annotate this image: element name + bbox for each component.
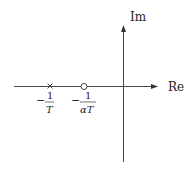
pole-zero-diagram: Re Im − 1 T − 1 αT — [0, 0, 192, 175]
pole-label-numerator: 1 — [47, 90, 53, 101]
pole-marker-icon — [48, 84, 53, 89]
pole-label: − 1 T — [36, 90, 54, 115]
zero-label-denominator: αT — [80, 104, 95, 115]
real-axis-label: Re — [168, 80, 184, 94]
zero-label-numerator: 1 — [85, 90, 91, 101]
pole-label-minus: − — [36, 94, 45, 107]
zero-marker-icon — [81, 84, 87, 90]
zero-label: − 1 αT — [71, 90, 96, 115]
pole-label-denominator: T — [46, 104, 54, 115]
real-axis-arrow-icon — [151, 84, 158, 89]
imag-axis-arrow-icon — [121, 25, 126, 32]
zero-label-minus: − — [71, 94, 80, 107]
imag-axis-label: Im — [130, 10, 147, 24]
